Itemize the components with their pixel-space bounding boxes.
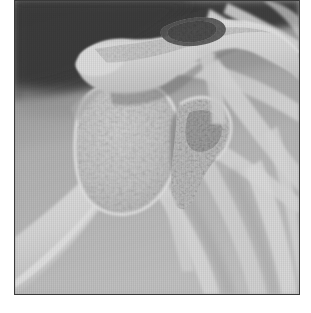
bottom-margin	[0, 295, 311, 313]
screenshot-root: Grayscale anteroposterior radiograph of …	[0, 0, 311, 313]
radiograph-frame	[14, 0, 300, 295]
film-grain	[15, 1, 299, 294]
left-margin	[0, 0, 14, 313]
radiograph-image	[15, 1, 299, 294]
